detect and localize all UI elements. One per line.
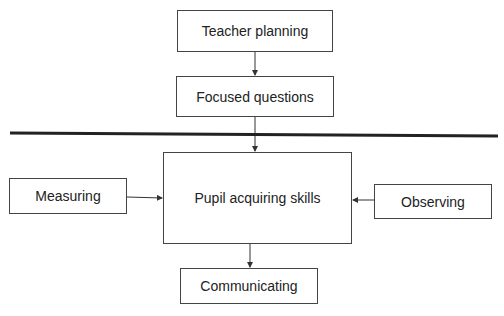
node-measuring: Measuring bbox=[9, 178, 127, 214]
node-label: Focused questions bbox=[196, 89, 314, 105]
node-label: Measuring bbox=[35, 188, 100, 204]
node-focused-questions: Focused questions bbox=[176, 76, 334, 117]
divider-line bbox=[10, 133, 498, 136]
node-teacher-planning: Teacher planning bbox=[177, 10, 333, 52]
node-label: Observing bbox=[401, 194, 465, 210]
node-pupil-acquiring-skills: Pupil acquiring skills bbox=[163, 152, 352, 244]
node-label: Communicating bbox=[200, 278, 297, 294]
node-label: Teacher planning bbox=[202, 23, 309, 39]
arrow-measuring-to-pupil bbox=[127, 197, 162, 198]
node-label: Pupil acquiring skills bbox=[194, 190, 320, 206]
node-communicating: Communicating bbox=[180, 268, 318, 304]
node-observing: Observing bbox=[374, 184, 492, 219]
